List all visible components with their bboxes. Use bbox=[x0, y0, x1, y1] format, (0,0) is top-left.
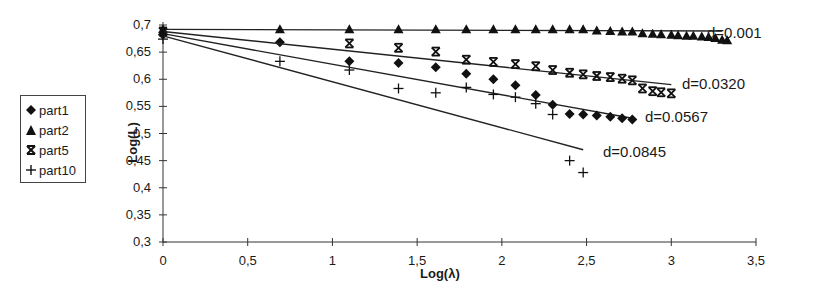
triangle-marker-icon bbox=[548, 24, 558, 33]
x-tick-label: 3 bbox=[668, 253, 675, 268]
plus-marker-icon bbox=[548, 110, 558, 120]
slope-label-part1: d=0.0567 bbox=[645, 108, 708, 125]
diamond-marker-icon bbox=[531, 90, 541, 100]
y-tick-label: 0,35 bbox=[126, 207, 151, 222]
asterisk-marker-icon bbox=[511, 60, 519, 68]
diamond-marker-icon bbox=[627, 114, 637, 124]
asterisk-marker-icon bbox=[25, 144, 37, 156]
plus-marker-icon bbox=[510, 92, 520, 102]
triangle-marker-icon bbox=[394, 24, 404, 33]
x-tick-label: 2,5 bbox=[578, 253, 596, 268]
diamond-marker-icon bbox=[25, 104, 37, 116]
y-tick-label: 0,3 bbox=[133, 234, 151, 249]
y-tick-label: 0,7 bbox=[133, 17, 151, 32]
diamond-marker-icon bbox=[488, 74, 498, 84]
plus-marker-icon bbox=[488, 89, 498, 99]
triangle-marker-icon bbox=[461, 24, 471, 33]
x-tick-label: 3,5 bbox=[747, 253, 765, 268]
triangle-marker-icon bbox=[688, 31, 698, 40]
triangle-marker-icon bbox=[637, 28, 647, 37]
plus-marker-icon bbox=[461, 82, 471, 92]
diamond-marker-icon bbox=[344, 56, 354, 66]
triangle-marker-icon bbox=[531, 24, 541, 33]
diamond-marker-icon bbox=[548, 100, 558, 110]
triangle-marker-icon bbox=[510, 24, 520, 33]
chart-legend: part1 part2 part5 part10 bbox=[20, 95, 86, 183]
triangle-marker-icon bbox=[344, 24, 354, 33]
triangle-marker-icon bbox=[565, 24, 575, 33]
diamond-marker-icon bbox=[394, 58, 404, 68]
plus-marker-icon bbox=[394, 83, 404, 93]
x-tick-label: 2 bbox=[498, 253, 505, 268]
asterisk-marker-icon bbox=[638, 84, 646, 92]
plus-marker-icon bbox=[565, 156, 575, 166]
asterisk-marker-icon bbox=[657, 88, 665, 96]
diamond-marker-icon bbox=[578, 110, 588, 120]
asterisk-marker-icon bbox=[532, 62, 540, 70]
x-tick-label: 0 bbox=[159, 253, 166, 268]
legend-item-part10: part10 bbox=[25, 160, 85, 180]
legend-item-part2: part2 bbox=[25, 120, 85, 140]
legend-label: part1 bbox=[39, 103, 69, 118]
chart-plot-area: 0,30,350,40,450,50,550,60,650,700,511,52… bbox=[0, 0, 819, 301]
plus-marker-icon bbox=[431, 88, 441, 98]
slope-label-part2: d=0.001 bbox=[707, 24, 762, 41]
y-tick-label: 0,4 bbox=[133, 180, 151, 195]
triangle-marker-icon bbox=[275, 24, 285, 33]
asterisk-marker-icon bbox=[566, 69, 574, 77]
y-axis-label: Log(L) bbox=[125, 122, 140, 162]
legend-label: part10 bbox=[39, 163, 76, 178]
diamond-marker-icon bbox=[565, 109, 575, 119]
asterisk-marker-icon bbox=[432, 48, 440, 56]
slope-label-part10: d=0.0845 bbox=[603, 143, 666, 160]
diamond-marker-icon bbox=[617, 113, 627, 123]
legend-label: part5 bbox=[39, 143, 69, 158]
plus-marker-icon bbox=[275, 56, 285, 66]
asterisk-marker-icon bbox=[489, 58, 497, 66]
diamond-marker-icon bbox=[461, 69, 471, 79]
legend-item-part1: part1 bbox=[25, 100, 85, 120]
triangle-marker-icon bbox=[578, 24, 588, 33]
asterisk-marker-icon bbox=[579, 70, 587, 78]
trendline-part2 bbox=[163, 29, 722, 31]
y-tick-label: 0,55 bbox=[126, 98, 151, 113]
triangle-marker-icon bbox=[488, 24, 498, 33]
plus-marker-icon bbox=[25, 164, 37, 176]
triangle-marker-icon bbox=[648, 29, 658, 38]
y-tick-label: 0,6 bbox=[133, 71, 151, 86]
asterisk-marker-icon bbox=[649, 87, 657, 95]
diamond-marker-icon bbox=[510, 80, 520, 90]
triangle-marker-icon bbox=[673, 30, 683, 39]
x-tick-label: 1 bbox=[329, 253, 336, 268]
x-tick-label: 0,5 bbox=[239, 253, 257, 268]
plus-marker-icon bbox=[578, 168, 588, 178]
legend-item-part5: part5 bbox=[25, 140, 85, 160]
legend-label: part2 bbox=[39, 123, 69, 138]
asterisk-marker-icon bbox=[462, 56, 470, 64]
asterisk-marker-icon bbox=[667, 89, 675, 97]
y-tick-label: 0,65 bbox=[126, 44, 151, 59]
asterisk-marker-icon bbox=[345, 39, 353, 47]
triangle-marker-icon bbox=[25, 124, 37, 136]
asterisk-marker-icon bbox=[395, 44, 403, 52]
diamond-marker-icon bbox=[431, 62, 441, 72]
asterisk-marker-icon bbox=[606, 73, 614, 81]
x-axis-label: Log(λ) bbox=[420, 266, 460, 281]
diamond-marker-icon bbox=[275, 37, 285, 47]
slope-label-part5: d=0.0320 bbox=[682, 75, 745, 92]
triangle-marker-icon bbox=[431, 24, 441, 33]
